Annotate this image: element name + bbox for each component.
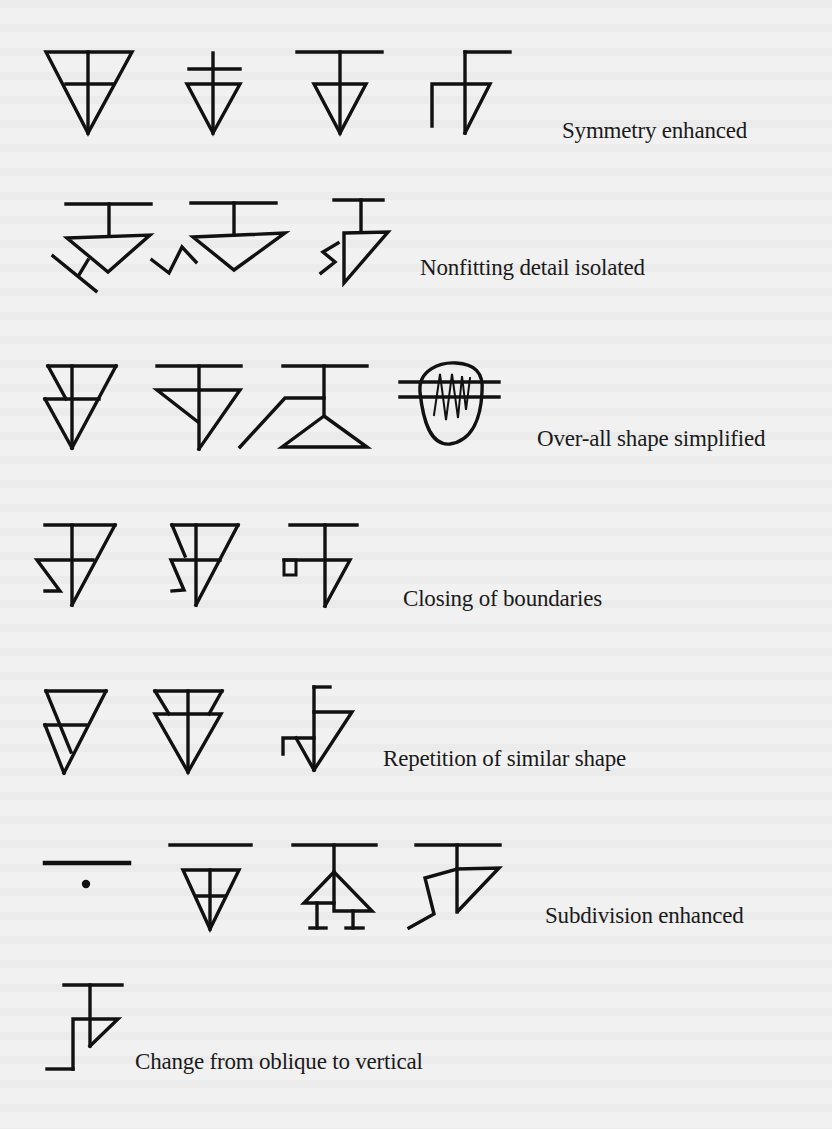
symmetry-glyph-2 <box>187 53 240 133</box>
label-symmetry-enhanced: Symmetry enhanced <box>562 119 747 142</box>
nonfitting-glyph-4 <box>321 200 388 283</box>
nonfitting-glyph-3 <box>191 203 285 270</box>
glyph-figures <box>0 0 832 1129</box>
closing-glyph-3 <box>284 525 357 606</box>
label-subdivision-enhanced: Subdivision enhanced <box>545 904 744 927</box>
nonfitting-glyph-2 <box>152 247 196 273</box>
overall-glyph-1 <box>45 366 116 448</box>
overall-glyph-2 <box>157 366 241 449</box>
subdivision-glyph-2 <box>170 845 251 929</box>
symmetry-glyph-1 <box>46 52 132 133</box>
closing-glyph-2 <box>171 525 238 605</box>
nonfitting-glyph-1 <box>53 204 151 291</box>
subdivision-glyph-3 <box>293 845 376 928</box>
label-overall-shape-simplified: Over-all shape simplified <box>537 427 765 450</box>
closing-glyph-1 <box>37 525 115 605</box>
overall-glyph-3 <box>240 366 367 447</box>
symmetry-glyph-4 <box>432 52 510 133</box>
repetition-glyph-1 <box>45 691 106 773</box>
symmetry-glyph-3 <box>297 52 382 133</box>
overall-glyph-4-shield <box>400 363 499 444</box>
repetition-glyph-3 <box>283 687 352 770</box>
label-nonfitting-detail-isolated: Nonfitting detail isolated <box>420 256 645 279</box>
label-closing-of-boundaries: Closing of boundaries <box>403 587 602 610</box>
label-repetition-of-similar-shape: Repetition of similar shape <box>383 747 626 770</box>
oblique-glyph-1 <box>47 985 122 1069</box>
repetition-glyph-2 <box>155 691 222 772</box>
subdivision-glyph-1 <box>45 863 129 888</box>
label-change-from-oblique-to-vertical: Change from oblique to vertical <box>135 1050 423 1073</box>
subdivision-glyph-4 <box>409 845 500 928</box>
